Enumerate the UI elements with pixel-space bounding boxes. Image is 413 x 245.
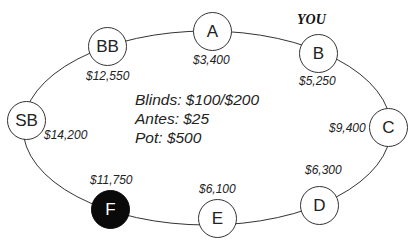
blinds-text: Blinds: $100/$200 [135,90,259,109]
seat-b-label: B [313,44,324,64]
seat-a: A [193,12,232,51]
game-info: Blinds: $100/$200 Antes: $25 Pot: $500 [135,90,259,147]
seat-bb-stack: $12,550 [86,69,129,83]
seat-f: F [91,190,130,229]
seat-f-stack: $11,750 [90,173,133,187]
seat-sb-stack: $14,200 [44,128,87,142]
poker-table-diagram: A $3,400 YOU B $5,250 C $9,400 D $6,300 … [0,0,413,245]
seat-d: D [300,186,339,225]
seat-sb-label: SB [15,111,38,131]
seat-f-label: F [105,200,115,220]
pot-text: Pot: $500 [135,128,259,147]
seat-b-stack: $5,250 [299,74,336,88]
you-label: YOU [297,12,326,28]
seat-bb: BB [88,27,127,66]
seat-a-label: A [207,22,218,42]
seat-b: B [299,34,338,73]
antes-text: Antes: $25 [135,109,259,128]
seat-c: C [369,108,408,147]
seat-sb: SB [7,101,46,140]
seat-bb-label: BB [96,37,119,57]
seat-e: E [198,199,237,238]
seat-e-label: E [212,209,223,229]
seat-a-stack: $3,400 [193,53,230,67]
seat-d-label: D [313,196,325,216]
seat-c-stack: $9,400 [329,121,366,135]
seat-c-label: C [382,118,394,138]
seat-d-stack: $6,300 [305,163,342,177]
seat-e-stack: $6,100 [199,182,236,196]
